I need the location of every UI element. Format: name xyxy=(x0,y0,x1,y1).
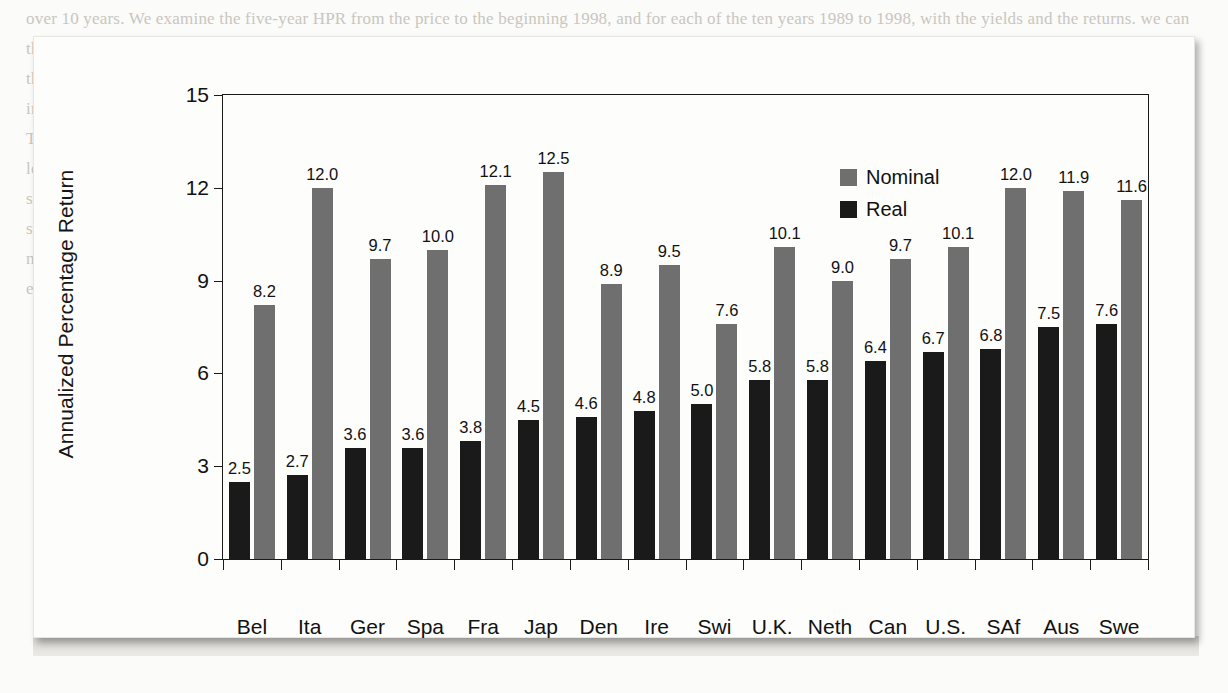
bar-value-label-real: 5.8 xyxy=(748,357,771,376)
bar-value-label-nominal: 10.0 xyxy=(422,227,454,246)
x-axis-tick-label: Ita xyxy=(298,615,321,639)
page-bottom-strip xyxy=(33,636,1199,656)
x-axis-tick-label: Ire xyxy=(644,615,669,639)
x-axis-tick-label: Den xyxy=(580,615,619,639)
plot-wrapper: Annualized Percentage Return 036912152.5… xyxy=(34,37,1194,637)
bar-nominal xyxy=(543,172,564,559)
bar-nominal xyxy=(312,188,333,559)
chart-legend: Nominal Real xyxy=(840,166,939,230)
legend-swatch-nominal-icon xyxy=(840,169,857,186)
x-axis-tick-mark xyxy=(570,559,571,570)
bar-value-label-nominal: 7.6 xyxy=(715,301,738,320)
y-axis-tick-mark xyxy=(214,373,223,374)
bar-value-label-nominal: 12.1 xyxy=(480,162,512,181)
bar-value-label-real: 2.5 xyxy=(228,459,251,478)
x-axis-tick-mark xyxy=(859,559,860,570)
x-axis-tick-label: Swe xyxy=(1099,615,1140,639)
y-axis-tick-label: 12 xyxy=(161,176,209,200)
bar-value-label-real: 2.7 xyxy=(286,452,309,471)
bar-real xyxy=(980,349,1001,559)
bar-nominal xyxy=(832,281,853,559)
legend-swatch-real-icon xyxy=(840,201,857,218)
legend-item-nominal: Nominal xyxy=(840,166,939,189)
x-axis-tick-mark xyxy=(223,559,224,570)
bar-real xyxy=(402,448,423,559)
y-axis-tick-label: 9 xyxy=(161,269,209,293)
x-axis-tick-label: Jap xyxy=(524,615,558,639)
bar-real xyxy=(345,448,366,559)
bar-real xyxy=(576,417,597,559)
legend-label-real: Real xyxy=(866,198,907,221)
x-axis-tick-label: Neth xyxy=(808,615,852,639)
bar-value-label-real: 3.6 xyxy=(401,425,424,444)
bar-value-label-nominal: 12.0 xyxy=(306,165,338,184)
x-axis-tick-label: Bel xyxy=(237,615,267,639)
bar-real xyxy=(1096,324,1117,559)
y-axis-tick-label: 3 xyxy=(161,454,209,478)
bar-value-label-nominal: 11.9 xyxy=(1058,168,1089,187)
y-axis-tick-label: 6 xyxy=(161,361,209,385)
x-axis-tick-mark xyxy=(686,559,687,570)
x-axis-tick-mark xyxy=(1148,559,1149,570)
bar-value-label-real: 7.6 xyxy=(1095,301,1118,320)
bar-real xyxy=(865,361,886,559)
y-axis-tick-label: 0 xyxy=(161,547,209,571)
figure-panel: Annualized Percentage Return 036912152.5… xyxy=(33,36,1195,638)
legend-label-nominal: Nominal xyxy=(866,166,939,189)
x-axis-tick-label: U.K. xyxy=(752,615,793,639)
y-axis-tick-mark xyxy=(214,281,223,282)
bar-value-label-real: 6.7 xyxy=(922,329,945,348)
bar-value-label-real: 6.8 xyxy=(980,326,1003,345)
bar-nominal xyxy=(659,265,680,559)
x-axis-tick-label: Aus xyxy=(1043,615,1079,639)
bar-nominal xyxy=(370,259,391,559)
bar-real xyxy=(634,411,655,559)
plot-area: 036912152.58.2Bel2.712.0Ita3.69.7Ger3.61… xyxy=(222,94,1149,560)
x-axis-tick-label: Can xyxy=(869,615,908,639)
y-axis-title: Annualized Percentage Return xyxy=(54,104,78,524)
bar-value-label-nominal: 10.1 xyxy=(942,224,974,243)
y-axis-tick-mark xyxy=(214,559,223,560)
bar-real xyxy=(460,441,481,559)
bar-value-label-nominal: 11.6 xyxy=(1116,177,1147,196)
bar-nominal xyxy=(1063,191,1084,559)
bar-real xyxy=(518,420,539,559)
x-axis-tick-label: Fra xyxy=(467,615,499,639)
x-axis-tick-mark xyxy=(801,559,802,570)
x-axis-tick-mark xyxy=(1090,559,1091,570)
bar-nominal xyxy=(948,247,969,559)
x-axis-tick-label: Swi xyxy=(697,615,731,639)
bar-value-label-nominal: 9.7 xyxy=(369,236,392,255)
bar-nominal xyxy=(890,259,911,559)
y-axis-tick-label: 15 xyxy=(161,83,209,107)
bar-value-label-nominal: 10.1 xyxy=(769,224,801,243)
y-axis-tick-mark xyxy=(214,95,223,96)
bar-real xyxy=(923,352,944,559)
x-axis-tick-label: Spa xyxy=(407,615,444,639)
bar-value-label-real: 3.8 xyxy=(459,418,482,437)
bar-value-label-nominal: 9.0 xyxy=(831,258,854,277)
x-axis-tick-mark xyxy=(339,559,340,570)
x-axis-tick-mark xyxy=(743,559,744,570)
bar-value-label-nominal: 8.2 xyxy=(253,282,276,301)
x-axis-tick-mark xyxy=(454,559,455,570)
bar-real xyxy=(807,380,828,559)
bar-real xyxy=(1038,327,1059,559)
x-axis-tick-mark xyxy=(1032,559,1033,570)
bar-nominal xyxy=(254,305,275,559)
x-axis-tick-label: SAf xyxy=(987,615,1021,639)
bar-value-label-real: 4.5 xyxy=(517,397,540,416)
bar-real xyxy=(229,482,250,559)
bar-nominal xyxy=(427,250,448,559)
bar-value-label-real: 4.8 xyxy=(633,388,656,407)
bar-value-label-real: 3.6 xyxy=(344,425,367,444)
bar-value-label-real: 6.4 xyxy=(864,338,887,357)
x-axis-tick-mark xyxy=(396,559,397,570)
bar-value-label-nominal: 12.0 xyxy=(1000,165,1032,184)
y-axis-tick-mark xyxy=(214,466,223,467)
bar-nominal xyxy=(1005,188,1026,559)
bar-value-label-real: 5.0 xyxy=(690,381,713,400)
bar-real xyxy=(749,380,770,559)
bar-nominal xyxy=(774,247,795,559)
bar-nominal xyxy=(1121,200,1142,559)
